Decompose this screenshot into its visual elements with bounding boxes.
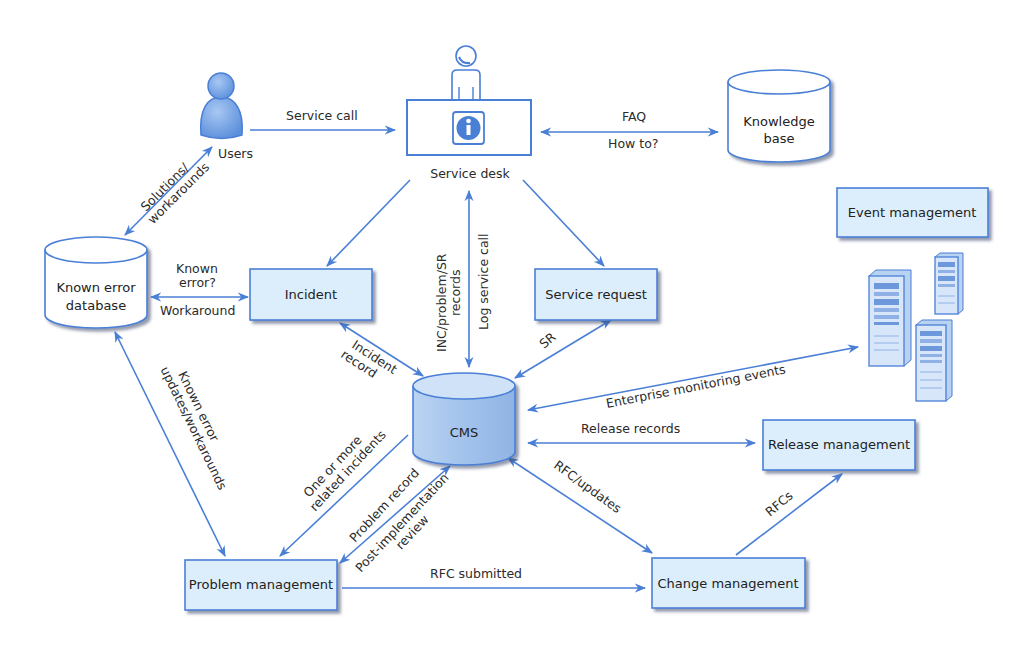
edges <box>115 130 858 588</box>
label-rfc-updates: RFC/updates <box>551 457 624 516</box>
node-release-management: Release management <box>763 420 915 470</box>
label-error-q: error? <box>179 275 216 290</box>
node-cms <box>413 373 515 465</box>
itsm-process-diagram: Service call FAQ How to? Solutions/ work… <box>0 0 1034 646</box>
label-log-service-call: Log service call <box>476 233 491 330</box>
node-users: Users <box>201 73 253 161</box>
user-icon <box>201 73 243 139</box>
change-management-label: Change management <box>658 576 799 591</box>
event-management-label: Event management <box>848 205 976 220</box>
node-problem-management: Problem management <box>185 560 337 610</box>
users-label: Users <box>218 146 253 161</box>
server-icon <box>869 253 963 401</box>
incident-label: Incident <box>285 287 337 302</box>
label-inc-problem-sr: INC/problem/SR <box>434 253 449 352</box>
label-known: Known <box>176 261 218 276</box>
node-service-request: Service request <box>535 269 657 320</box>
info-icon <box>453 112 484 144</box>
edge-desk-sr <box>523 180 604 266</box>
edge-rfcs <box>736 474 842 555</box>
problem-management-label: Problem management <box>189 577 333 592</box>
knowledge-base-line2: base <box>764 131 795 146</box>
service-request-label: Service request <box>545 287 647 302</box>
label-sr: SR <box>536 329 559 351</box>
node-change-management: Change management <box>652 558 805 608</box>
knowledge-base-line1: Knowledge <box>743 114 814 129</box>
known-error-db-line2: database <box>66 298 126 313</box>
label-rfc-submitted: RFC submitted <box>430 566 522 581</box>
node-incident: Incident <box>250 269 372 320</box>
label-release-records: Release records <box>581 421 680 436</box>
edge-desk-incident <box>327 180 410 266</box>
label-records: records <box>448 270 463 316</box>
cms-label: CMS <box>450 425 479 440</box>
node-event-management: Event management <box>837 188 988 237</box>
agent-icon <box>452 46 480 100</box>
label-rfcs: RFCs <box>762 488 795 519</box>
label-workaround: Workaround <box>160 303 235 318</box>
edge-sr <box>515 320 611 378</box>
release-management-label: Release management <box>768 437 910 452</box>
label-how-to: How to? <box>608 136 658 151</box>
service-desk-label: Service desk <box>430 166 510 181</box>
label-enterprise-monitoring: Enterprise monitoring events <box>605 361 787 411</box>
label-faq: FAQ <box>622 109 646 124</box>
node-service-desk: Service desk <box>407 46 531 181</box>
known-error-db-line1: Known error <box>56 280 136 295</box>
label-service-call: Service call <box>286 108 358 123</box>
